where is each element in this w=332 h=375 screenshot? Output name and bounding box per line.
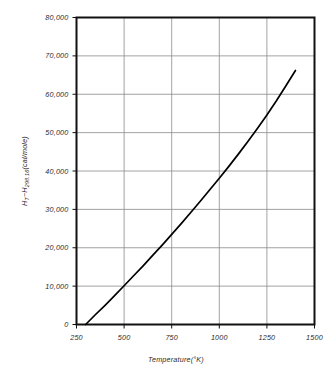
y-tick-label: 80,000: [45, 13, 68, 22]
y-tick-label: 70,000: [45, 51, 68, 60]
y-tick-label: 60,000: [45, 90, 68, 99]
y-tick-label: 50,000: [45, 128, 68, 137]
x-tick-label: 1000: [211, 333, 228, 342]
x-tick-label: 750: [165, 333, 178, 342]
y-tick-label: 40,000: [45, 167, 68, 176]
x-axis-title: Temperature(°K): [148, 355, 204, 364]
y-tick-label: 30,000: [45, 205, 68, 214]
x-tick-label: 250: [69, 333, 83, 342]
svg-text:Temperature(°K): Temperature(°K): [148, 355, 204, 364]
x-tick-label: 1500: [306, 333, 323, 342]
y-title-units: (cal/mole): [20, 136, 29, 170]
x-tick-label: 500: [118, 333, 131, 342]
enthalpy-temperature-chart: 010,00020,00030,00040,00050,00060,00070,…: [0, 0, 332, 375]
y-tick-label: 10,000: [45, 282, 68, 291]
x-title-units: (°K): [191, 355, 204, 364]
x-tick-label: 1250: [259, 333, 276, 342]
y-title-h2-sub: 298.16: [24, 170, 30, 189]
x-title-name: Temperature: [148, 355, 191, 364]
chart-figure: 010,00020,00030,00040,00050,00060,00070,…: [0, 0, 332, 375]
y-tick-label: 0: [64, 320, 68, 329]
y-tick-label: 20,000: [44, 243, 68, 252]
